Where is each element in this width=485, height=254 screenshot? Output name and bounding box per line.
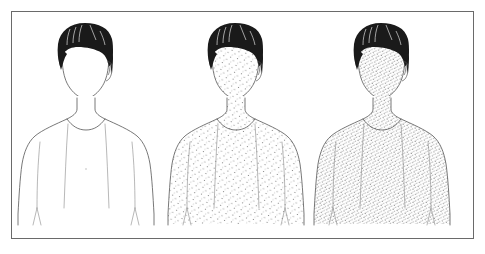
body-figure-sparse [160,12,312,227]
body-figure-clear [10,12,162,227]
figure-panel-dense [306,12,458,227]
figure-panel-clear [10,12,162,227]
skin-area-clear [18,28,154,224]
chest-mark-clear [85,168,87,170]
illustration-root [0,0,485,254]
figure-panel-sparse [160,12,312,227]
body-figure-dense [306,12,458,227]
